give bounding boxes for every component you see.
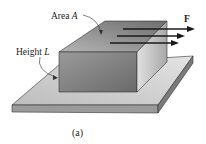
height-label: Height L (16, 47, 50, 57)
area-label: Area A (51, 11, 78, 21)
force-label: F (184, 14, 190, 24)
figure-caption: (a) (72, 127, 83, 139)
shear-stress-diagram: Area A Height L F (a) (0, 0, 206, 144)
block-front-face (59, 52, 137, 92)
